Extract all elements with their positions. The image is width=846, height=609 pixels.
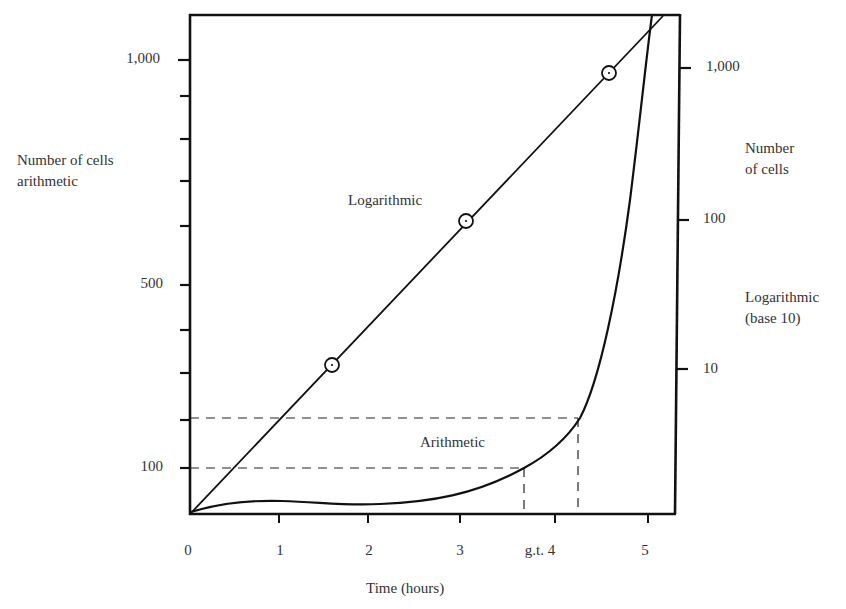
curve-label-logarithmic: Logarithmic <box>348 190 422 210</box>
x-tick-3: 3 <box>430 542 490 559</box>
left-axis-ticks <box>178 60 190 468</box>
x-tick-2: 2 <box>339 542 399 559</box>
marker-circle-icon <box>602 66 616 80</box>
marker-circle-icon <box>325 358 339 372</box>
left-axis-title-line1: Number of cells <box>17 150 114 170</box>
right-axis-title-line2: of cells <box>745 159 789 179</box>
cell-growth-chart <box>0 0 846 609</box>
x-tick-0: 0 <box>158 542 218 559</box>
y-right-tick-100: 100 <box>703 210 726 227</box>
marker-circle-icon <box>459 214 473 228</box>
x-tick-gt4: g.t. 4 <box>510 542 570 559</box>
x-axis-ticks <box>279 514 648 523</box>
dashed-guides <box>190 418 578 514</box>
y-right-tick-10: 10 <box>703 360 718 377</box>
right-axis-scale-line2: (base 10) <box>745 308 800 328</box>
curve-label-arithmetic: Arithmetic <box>420 432 485 452</box>
right-axis-title-line1: Number <box>745 138 794 158</box>
right-axis-scale-line1: Logarithmic <box>745 287 819 307</box>
y-left-tick-100: 100 <box>103 458 163 475</box>
x-tick-1: 1 <box>250 542 310 559</box>
y-right-tick-1000: 1,000 <box>706 58 740 75</box>
x-tick-5: 5 <box>615 542 675 559</box>
y-left-tick-500: 500 <box>103 275 163 292</box>
left-axis-title-line2: arithmetic <box>17 171 78 191</box>
x-axis-title: Time (hours) <box>366 578 444 598</box>
y-left-tick-1000: 1,000 <box>100 50 160 67</box>
